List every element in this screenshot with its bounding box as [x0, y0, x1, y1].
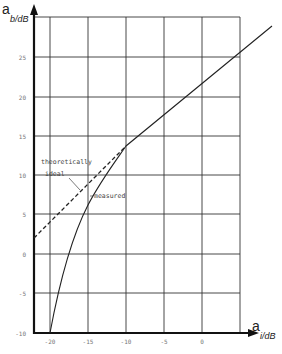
chart: theoretically ideal measured 25 20 15 10…: [0, 0, 282, 354]
series-measured: [50, 26, 272, 333]
svg-text:-10: -10: [15, 330, 26, 337]
annotation-theoretically: theoretically: [41, 158, 92, 166]
svg-text:-5: -5: [19, 290, 27, 297]
y-axis-arrow-icon: [30, 4, 38, 15]
grid: [34, 17, 240, 333]
svg-text:25: 25: [19, 54, 27, 61]
annotation-ideal: ideal: [45, 170, 65, 178]
svg-text:0: 0: [200, 338, 204, 345]
y-tick-labels: 25 20 15 10 5 0 -5 -10: [15, 54, 26, 337]
svg-text:a: a: [252, 318, 260, 334]
svg-text:5: 5: [22, 211, 26, 218]
annotation-measured: measured: [94, 192, 125, 200]
svg-text:a: a: [2, 1, 10, 17]
svg-text:b/dB: b/dB: [10, 14, 29, 24]
svg-text:-15: -15: [83, 338, 94, 345]
svg-text:-5: -5: [160, 338, 168, 345]
leader-ideal: [69, 178, 80, 190]
x-axis-label: a i/dB: [252, 318, 276, 341]
svg-text:-20: -20: [45, 338, 56, 345]
svg-text:i/dB: i/dB: [260, 331, 276, 341]
svg-text:10: 10: [19, 172, 27, 179]
y-axis-label: a b/dB: [2, 1, 29, 24]
svg-text:-10: -10: [121, 338, 132, 345]
svg-text:15: 15: [19, 133, 27, 140]
x-tick-labels: -20 -15 -10 -5 0: [45, 338, 205, 345]
svg-text:20: 20: [19, 94, 27, 101]
svg-text:0: 0: [22, 251, 26, 258]
